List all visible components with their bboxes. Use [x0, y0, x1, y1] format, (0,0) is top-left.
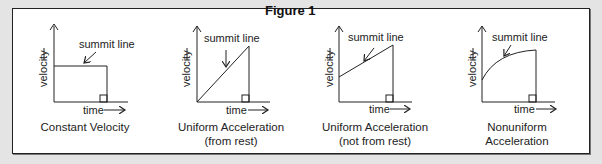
velocity-curve [482, 50, 536, 102]
figure-title: Figure 1 [265, 3, 316, 18]
caption-line: Constant Velocity [30, 120, 140, 134]
caption-line: (not from rest) [310, 134, 440, 148]
caption-line: Uniform Acceleration [166, 120, 296, 134]
panel-constant-velocity [50, 24, 128, 102]
y-axis-label: velocity [37, 50, 49, 87]
summit-annotation: summit line [348, 31, 404, 43]
caption-line: (from rest) [166, 134, 296, 148]
summit-annotation: summit line [204, 32, 260, 44]
y-axis-label: velocity [180, 50, 192, 87]
x-axis-label: time [226, 104, 247, 116]
velocity-line [339, 45, 393, 102]
x-axis-label: time [83, 104, 104, 116]
y-axis-label: velocity [323, 50, 335, 87]
caption-panel-1: Constant Velocity [30, 120, 140, 134]
x-axis-label: time [369, 103, 390, 115]
caption-line: Acceleration [462, 134, 572, 148]
caption-panel-3: Uniform Acceleration (not from rest) [310, 120, 440, 148]
velocity-line [197, 46, 249, 102]
y-arrow-left [50, 24, 54, 30]
y-arrow-right [54, 24, 58, 30]
summit-annotation: summit line [492, 31, 548, 43]
velocity-line [54, 66, 107, 102]
summit-annotation: summit line [79, 38, 135, 50]
summit-pointer [84, 52, 96, 63]
caption-line: Uniform Acceleration [310, 120, 440, 134]
y-axis-label: velocity [466, 50, 478, 87]
caption-line: Nonuniform [462, 120, 572, 134]
caption-panel-2: Uniform Acceleration (from rest) [166, 120, 296, 148]
caption-panel-4: Nonuniform Acceleration [462, 120, 572, 148]
right-angle-marker [100, 95, 107, 102]
x-axis-label: time [514, 103, 535, 115]
summit-pointer [504, 45, 511, 56]
